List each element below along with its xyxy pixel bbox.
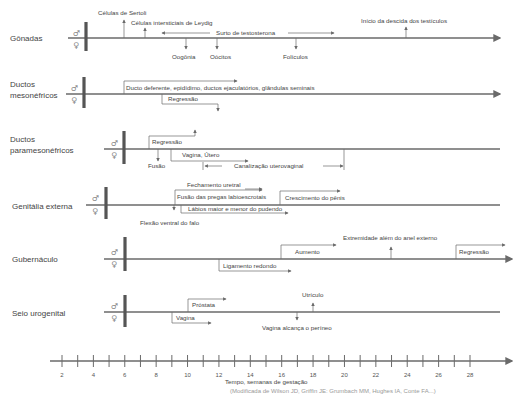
row-paramesonephric-ducts: Ductos paramesonéfricos ♂ ♀ Regressão Fu…	[10, 130, 500, 170]
tick-label: 28	[467, 372, 474, 378]
label-vagina: Vagina	[176, 314, 195, 321]
female-symbol: ♀	[92, 207, 98, 216]
label-fusion: Fusão	[148, 162, 166, 169]
row-label-line2: mesonéfricos	[10, 91, 58, 100]
label-sertoli: Células de Sertoli	[98, 9, 147, 16]
time-axis: 246810121416182022242628 Tempo, semanas …	[50, 355, 512, 385]
row-label: Seio urogenital	[12, 309, 66, 318]
tick-label: 18	[310, 372, 317, 378]
label-canalization: Canalização uterovaginal	[234, 162, 303, 169]
male-symbol: ♂	[111, 139, 118, 148]
tick-label: 12	[216, 372, 223, 378]
label-vagina-uterus: Vagina, Útero	[182, 151, 220, 158]
female-symbol: ♀	[73, 41, 79, 50]
time-axis-label: Tempo, semanas de gestação	[225, 378, 308, 385]
label-regression: Regressão	[168, 95, 198, 102]
female-symbol: ♀	[111, 260, 117, 269]
row-mesonephric-ducts: Ductos mesonéfricos ♂ ♀ Ducto deferente,…	[10, 77, 500, 111]
label-oogonia: Oogônia	[172, 53, 196, 60]
label-penis-growth: Crescimento do pênis	[285, 194, 345, 201]
label-increase: Aumento	[295, 248, 320, 255]
tick-label: 4	[92, 372, 96, 378]
row-label: Genitália externa	[12, 202, 73, 211]
row-gubernaculum: Gubernáculo ♂ ♀ Aumento Extremidade além…	[12, 234, 512, 271]
row-label-line2: paramesonéfricos	[10, 146, 74, 155]
label-utricle: Utrículo	[302, 291, 324, 298]
label-regression: Regressão	[459, 248, 489, 255]
tick-label: 8	[154, 372, 158, 378]
row-label-line1: Ductos	[10, 135, 35, 144]
row-gonads: Gônadas ♂ ♀ Células de Sertoli Células i…	[10, 9, 500, 60]
tick-label: 2	[60, 372, 64, 378]
label-testicle-descent: Início da descida dos testículos	[361, 17, 447, 24]
male-symbol: ♂	[92, 194, 99, 203]
label-vagina-perineum: Vagina alcança o períneo	[262, 324, 332, 331]
figure-credit: (Modificada de Wilson JD, Griffin JE: Gr…	[230, 388, 436, 394]
label-urethral-closure: Fechamento uretral	[187, 181, 241, 188]
label-round-ligament: Ligamento redondo	[223, 262, 277, 269]
female-symbol: ♀	[71, 96, 77, 105]
label-ventral-flexion: Flexão ventral do falo	[140, 219, 200, 226]
label-prostate: Próstata	[192, 301, 216, 308]
tick-label: 6	[123, 372, 127, 378]
sexual-differentiation-timeline: Gônadas ♂ ♀ Células de Sertoli Células i…	[0, 0, 524, 396]
label-male-ducts: Ducto deferente, epidídimo, ductos ejacu…	[126, 84, 314, 91]
label-regression: Regressão	[152, 138, 182, 145]
label-leydig: Células intersticiais de Leydig	[131, 19, 213, 26]
male-symbol: ♂	[111, 248, 118, 257]
male-symbol: ♂	[111, 302, 118, 311]
row-label-line1: Ductos	[10, 80, 35, 89]
label-labia: Lábios maior e menor do pudendo	[188, 205, 283, 212]
female-symbol: ♀	[111, 151, 117, 160]
label-oocytes: Oócitos	[210, 53, 231, 60]
tick-label: 24	[404, 372, 411, 378]
tick-label: 20	[341, 372, 348, 378]
row-label: Gubernáculo	[12, 255, 58, 264]
male-symbol: ♂	[73, 29, 80, 38]
tick-label: 26	[435, 372, 442, 378]
label-labioscrotal-fusion: Fusão das pregas labioescrotais	[177, 193, 266, 200]
tick-label: 10	[184, 372, 191, 378]
row-urogenital-sinus: Seio urogenital ♂ ♀ Próstata Vagina Utrí…	[12, 291, 500, 331]
tick-label: 22	[373, 372, 380, 378]
row-external-genitalia: Genitália externa ♂ ♀ Flexão ventral do …	[12, 181, 500, 226]
label-follicles: Folículos	[283, 53, 308, 60]
row-label-gonads: Gônadas	[10, 34, 42, 43]
female-symbol: ♀	[111, 314, 117, 323]
male-symbol: ♂	[71, 84, 78, 93]
label-testosterone: Surto de testosterona	[216, 29, 276, 36]
label-beyond-ring: Extremidade além do anel externo	[343, 234, 438, 241]
